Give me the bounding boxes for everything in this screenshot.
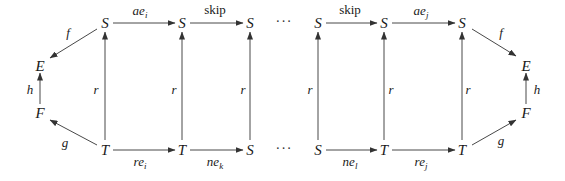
node-s1: S bbox=[101, 15, 109, 31]
label-r-5: r bbox=[388, 82, 394, 97]
edge-g-left bbox=[50, 120, 97, 145]
node-s2: S bbox=[178, 15, 186, 31]
label-re-i: rei bbox=[134, 154, 147, 171]
node-s3: S bbox=[246, 15, 254, 31]
label-ae-i: aei bbox=[133, 3, 148, 20]
label-r-4: r bbox=[307, 82, 313, 97]
label-g-left: g bbox=[62, 135, 69, 150]
node-t6: T bbox=[458, 142, 468, 158]
edge-g-right bbox=[472, 120, 516, 145]
label-h-left: h bbox=[27, 82, 34, 97]
label-ne-l: nel bbox=[343, 154, 358, 171]
ellipsis-top: ··· bbox=[276, 14, 293, 29]
diagram-canvas: S S S S S S T T S S T T ··· ··· E F E F … bbox=[0, 0, 565, 181]
label-f-left: f bbox=[66, 25, 72, 40]
label-r-6: r bbox=[465, 82, 471, 97]
label-f-right: f bbox=[499, 25, 505, 40]
label-skip-2: skip bbox=[339, 2, 361, 17]
node-f-right: F bbox=[520, 105, 531, 121]
node-e-right: E bbox=[520, 58, 530, 74]
node-b3: S bbox=[246, 142, 254, 158]
label-g-right: g bbox=[498, 133, 505, 148]
node-s5: S bbox=[380, 15, 388, 31]
node-e-left: E bbox=[34, 58, 44, 74]
label-h-right: h bbox=[534, 82, 541, 97]
node-t5: T bbox=[380, 142, 390, 158]
ellipsis-bottom: ··· bbox=[276, 141, 293, 156]
label-r-1: r bbox=[93, 82, 99, 97]
edge-f-right bbox=[472, 29, 516, 56]
node-b4: S bbox=[314, 142, 322, 158]
label-skip-1: skip bbox=[204, 2, 226, 17]
node-s4: S bbox=[314, 15, 322, 31]
edge-f-left bbox=[50, 29, 97, 58]
node-t2: T bbox=[178, 142, 188, 158]
label-ne-k: nek bbox=[207, 154, 224, 171]
label-ae-j: aej bbox=[414, 3, 429, 20]
label-r-2: r bbox=[171, 82, 177, 97]
label-re-j: rej bbox=[415, 154, 428, 171]
node-s6: S bbox=[458, 15, 466, 31]
node-f-left: F bbox=[34, 105, 45, 121]
label-r-3: r bbox=[240, 82, 246, 97]
node-t1: T bbox=[101, 142, 111, 158]
